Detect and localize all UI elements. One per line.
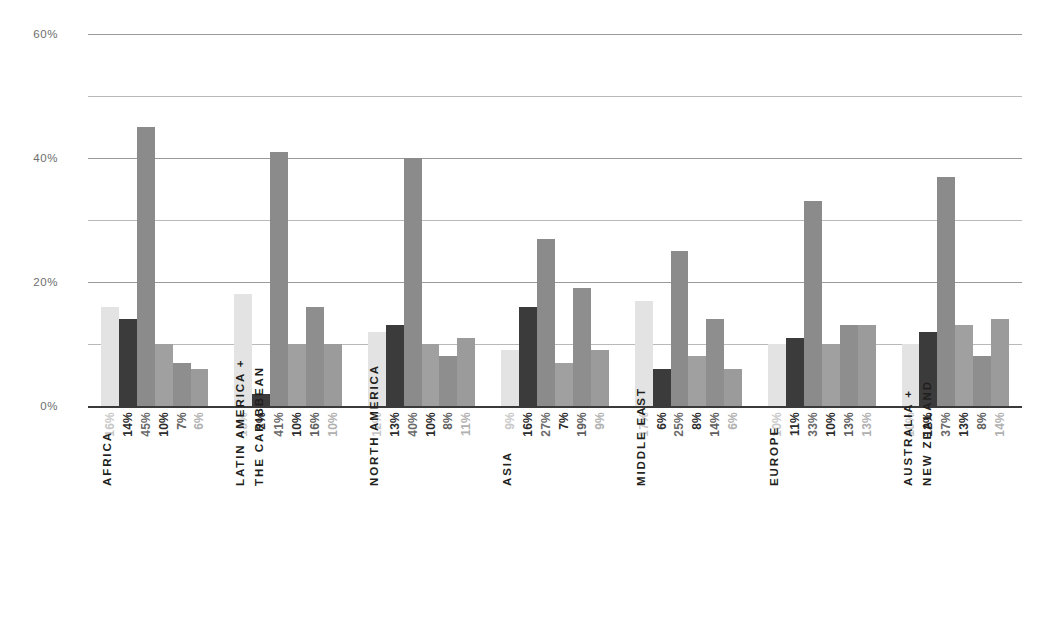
value-label-australia-new-zealand-5: 8% — [976, 412, 988, 430]
value-label-middle-east-4: 8% — [691, 412, 703, 430]
bar-australia-new-zealand-4[interactable] — [955, 325, 973, 406]
value-label-latin-america-caribbean-6: 10% — [327, 412, 339, 437]
bar-north-america-2[interactable] — [386, 325, 404, 406]
bar-europe-3[interactable] — [804, 201, 822, 406]
bar-north-america-5[interactable] — [439, 356, 457, 406]
bar-middle-east-4[interactable] — [688, 356, 706, 406]
value-label-cell: 16% — [306, 408, 324, 480]
bar-asia-1[interactable] — [501, 350, 519, 406]
bar-north-america-6[interactable] — [457, 338, 475, 406]
value-label-cell: 6% — [724, 408, 742, 480]
bar-asia-5[interactable] — [573, 288, 591, 406]
bar-europe-2[interactable] — [786, 338, 804, 406]
value-label-cell: 6% — [653, 408, 671, 480]
category-labels-layer: 16%14%45%10%7%6%AFRICA18%2%41%10%16%10%L… — [88, 408, 1022, 623]
bar-groups — [88, 34, 1022, 406]
label-group-asia: 9%16%27%7%19%9%ASIA — [488, 408, 621, 623]
value-label-cell: 14% — [706, 408, 724, 480]
bars — [635, 34, 742, 406]
bar-north-america-4[interactable] — [422, 344, 440, 406]
bar-middle-east-2[interactable] — [653, 369, 671, 406]
bar-group-middle-east — [622, 34, 755, 406]
bar-africa-2[interactable] — [119, 319, 137, 406]
category-label-line: THE CARIBBEAN — [253, 366, 265, 486]
value-label-north-america-5: 8% — [442, 412, 454, 430]
bars — [902, 34, 1009, 406]
bar-latin-america-caribbean-4[interactable] — [288, 344, 306, 406]
y-axis-tick-40: 40% — [12, 152, 58, 164]
bars — [768, 34, 875, 406]
bar-europe-5[interactable] — [840, 325, 858, 406]
value-label-cell: 45% — [137, 408, 155, 480]
value-label-cell: 10% — [155, 408, 173, 480]
value-label-cell: 6% — [191, 408, 209, 480]
value-label-cell: 8% — [973, 408, 991, 480]
bar-europe-6[interactable] — [858, 325, 876, 406]
value-label-middle-east-3: 25% — [673, 412, 685, 437]
value-label-north-america-2: 13% — [389, 412, 401, 437]
value-label-cell: 8% — [439, 408, 457, 480]
bar-middle-east-6[interactable] — [724, 369, 742, 406]
y-axis-tick-0: 0% — [12, 400, 58, 412]
bar-asia-3[interactable] — [537, 239, 555, 406]
bar-asia-6[interactable] — [591, 350, 609, 406]
category-label-line: NEW ZEALAND — [921, 380, 933, 486]
bar-australia-new-zealand-5[interactable] — [973, 356, 991, 406]
value-label-cell: 14% — [119, 408, 137, 480]
value-label-middle-east-5: 14% — [709, 412, 721, 437]
y-axis-tick-labels: 0%20%40%60% — [0, 34, 58, 406]
value-label-cell: 7% — [555, 408, 573, 480]
value-label-cell: 13% — [858, 408, 876, 480]
value-label-cell: 7% — [173, 408, 191, 480]
y-axis-tick-60: 60% — [12, 28, 58, 40]
bar-europe-4[interactable] — [822, 344, 840, 406]
value-label-asia-1: 9% — [504, 412, 516, 430]
bar-africa-3[interactable] — [137, 127, 155, 406]
value-labels: 10%12%37%13%8%14% — [902, 408, 1009, 480]
category-label-line: AUSTRALIA + — [902, 389, 914, 486]
value-label-cell: 10% — [288, 408, 306, 480]
category-label-line: EUROPE — [768, 426, 780, 486]
category-label-line: LATIN AMERICA + — [234, 359, 246, 486]
value-label-europe-3: 33% — [807, 412, 819, 437]
value-label-asia-3: 27% — [540, 412, 552, 437]
value-label-north-america-6: 11% — [460, 412, 472, 436]
bar-latin-america-caribbean-5[interactable] — [306, 307, 324, 406]
bar-group-australia-new-zealand — [889, 34, 1022, 406]
bar-middle-east-5[interactable] — [706, 319, 724, 406]
bar-africa-6[interactable] — [191, 369, 209, 406]
bar-north-america-3[interactable] — [404, 158, 422, 406]
bar-latin-america-caribbean-6[interactable] — [324, 344, 342, 406]
y-axis-tick-20: 20% — [12, 276, 58, 288]
value-label-cell: 13% — [386, 408, 404, 480]
bar-africa-1[interactable] — [101, 307, 119, 406]
value-labels: 10%11%33%10%13%13% — [768, 408, 875, 480]
bar-europe-1[interactable] — [768, 344, 786, 406]
value-label-cell: 10% — [822, 408, 840, 480]
bar-asia-4[interactable] — [555, 363, 573, 406]
bar-africa-5[interactable] — [173, 363, 191, 406]
category-label-line: NORTH AMERICA — [368, 364, 380, 486]
value-label-cell: 16% — [519, 408, 537, 480]
value-label-cell: 40% — [404, 408, 422, 480]
bar-australia-new-zealand-3[interactable] — [937, 177, 955, 406]
value-labels: 17%6%25%8%14%6% — [635, 408, 742, 480]
bar-group-europe — [755, 34, 888, 406]
value-label-africa-5: 7% — [176, 412, 188, 430]
value-label-asia-2: 16% — [522, 412, 534, 437]
bar-africa-4[interactable] — [155, 344, 173, 406]
value-label-cell: 41% — [270, 408, 288, 480]
bar-latin-america-caribbean-3[interactable] — [270, 152, 288, 406]
bar-asia-2[interactable] — [519, 307, 537, 406]
bar-middle-east-3[interactable] — [671, 251, 689, 406]
value-label-cell: 37% — [937, 408, 955, 480]
value-label-europe-6: 13% — [861, 412, 873, 437]
value-label-australia-new-zealand-3: 37% — [940, 412, 952, 437]
label-group-australia-new-zealand: 10%12%37%13%8%14%AUSTRALIA +NEW ZEALAND — [889, 408, 1022, 623]
value-labels: 18%2%41%10%16%10% — [234, 408, 341, 480]
bar-group-latin-america-caribbean — [221, 34, 354, 406]
value-label-cell: 8% — [688, 408, 706, 480]
bar-australia-new-zealand-6[interactable] — [991, 319, 1009, 406]
value-label-australia-new-zealand-6: 14% — [994, 412, 1006, 437]
value-label-africa-2: 14% — [122, 412, 134, 437]
